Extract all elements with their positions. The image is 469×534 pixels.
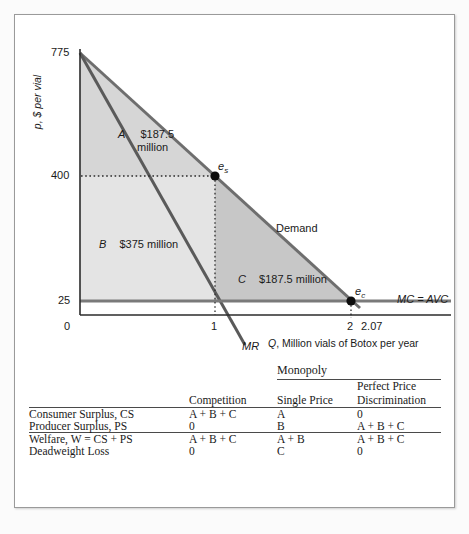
y-tick-25: 25 — [58, 294, 70, 307]
row-label-consumer-surplus: Consumer Surplus, CS — [29, 408, 189, 420]
region-a-value-line2: million — [137, 141, 168, 154]
table-header-row-label — [29, 380, 189, 408]
point-e-c-label: ec — [355, 285, 365, 300]
region-c-letter: C — [238, 273, 246, 285]
point-e-s-sub: s — [224, 166, 228, 175]
x-tick-1: 1 — [211, 320, 217, 333]
region-c-label-wrap: C $187.5 million — [238, 273, 327, 286]
y-axis-title: p, $ per vial — [31, 75, 43, 129]
table-header-single-price: Single Price — [277, 380, 357, 408]
table-header-ppd: Perfect Price Discrimination — [357, 380, 441, 408]
row-consumer-surplus-competition: A + B + C — [189, 408, 277, 420]
x-axis-title-q: Q — [268, 337, 276, 349]
demand-curve-label: Demand — [276, 222, 318, 235]
figure-frame: p, $ per vial 775 400 25 0 1 2 2.07 Q, M… — [14, 14, 455, 508]
y-tick-400: 400 — [51, 169, 69, 182]
x-axis-title-rest: , Million vials of Botox per year — [276, 337, 418, 349]
region-b-label-wrap: B $375 million — [99, 238, 178, 251]
row-welfare-ppd: A + B + C — [357, 433, 441, 445]
mr-curve-label: MR — [242, 340, 259, 353]
region-b-value: $375 million — [119, 238, 178, 250]
row-consumer-surplus-single-price: A — [277, 408, 357, 420]
region-c-value: $187.5 million — [259, 273, 327, 285]
row-deadweight-loss-competition: 0 — [189, 445, 277, 457]
row-consumer-surplus-ppd: 0 — [357, 408, 441, 420]
surplus-comparison-table: Monopoly Competition Single Price Perfec… — [29, 363, 441, 457]
table-header-row: Competition Single Price Perfect Price D… — [29, 380, 441, 408]
point-e-c-sub: c — [361, 291, 365, 300]
region-b-letter: B — [99, 238, 106, 250]
table-row: Consumer Surplus, CS A + B + C A 0 — [29, 408, 441, 420]
table-header-ppd-line1: Perfect Price — [357, 380, 416, 392]
point-e-s-label: es — [218, 160, 228, 175]
row-deadweight-loss-ppd: 0 — [357, 445, 441, 457]
row-label-welfare: Welfare, W = CS + PS — [29, 433, 189, 445]
figure-root: p, $ per vial 775 400 25 0 1 2 2.07 Q, M… — [0, 0, 469, 534]
y-tick-775: 775 — [51, 46, 69, 59]
row-deadweight-loss-single-price: C — [277, 445, 357, 457]
table-group-header-monopoly: Monopoly — [277, 363, 441, 378]
row-label-deadweight-loss: Deadweight Loss — [29, 445, 189, 457]
x-tick-2-07: 2.07 — [361, 320, 382, 333]
chart-area: p, $ per vial 775 400 25 0 1 2 2.07 Q, M… — [15, 15, 456, 355]
table-header-competition: Competition — [189, 380, 277, 408]
table-row: Deadweight Loss 0 C 0 — [29, 445, 441, 457]
group-header-spacer-1 — [29, 363, 189, 378]
region-a-label-wrap: A $187.5 — [118, 128, 174, 141]
mc-avc-curve-label: MC = AVC — [397, 293, 448, 306]
table-row: Welfare, W = CS + PS A + B + C A + B A +… — [29, 433, 441, 445]
group-header-spacer-2 — [189, 363, 277, 378]
row-welfare-single-price: A + B — [277, 433, 357, 445]
x-tick-2: 2 — [347, 320, 353, 333]
y-axis-title-wrap: p, $ per vial — [27, 62, 45, 142]
x-tick-0: 0 — [64, 320, 70, 333]
row-producer-surplus-ppd: A + B + C — [357, 420, 441, 433]
region-a-value-line1: $187.5 — [140, 128, 174, 140]
x-axis-title-wrap: Q, Million vials of Botox per year — [268, 337, 419, 349]
table-header-ppd-line2: Discrimination — [357, 394, 426, 406]
row-welfare-competition: A + B + C — [189, 433, 277, 445]
row-producer-surplus-single-price: B — [277, 420, 357, 433]
region-a-letter: A — [118, 128, 125, 140]
table-row: Producer Surplus, PS 0 B A + B + C — [29, 420, 441, 433]
table-group-header-row: Monopoly — [29, 363, 441, 378]
chart-graphic — [15, 15, 456, 355]
row-producer-surplus-competition: 0 — [189, 420, 277, 433]
row-label-producer-surplus: Producer Surplus, PS — [29, 420, 189, 433]
